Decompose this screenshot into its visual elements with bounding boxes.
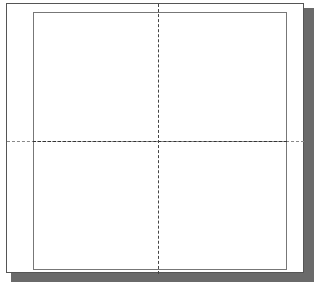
horizontal-center-guide-inner [33,141,287,142]
vertical-center-guide[interactable] [158,4,159,274]
